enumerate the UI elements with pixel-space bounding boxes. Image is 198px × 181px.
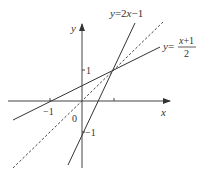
label-y-2x-minus-1: y=2x−1: [109, 7, 143, 19]
tick-label-y-1: 1: [86, 65, 91, 76]
label-fraction-numerator: x+1: [178, 35, 194, 46]
line-y-x-plus-1-over-2: [13, 47, 160, 120]
tick-label-y-neg1: −1: [85, 127, 96, 138]
graph-figure: y=2x−1 y= x+1 2 x y 0 −1 1 −1: [0, 0, 198, 181]
tick-label-x-neg1: −1: [43, 106, 54, 117]
label-y-eq: y=: [162, 40, 174, 52]
line-y-2x-minus-1: [68, 23, 135, 165]
line-y-x-dashed: [13, 22, 163, 168]
y-axis-label: y: [70, 22, 76, 34]
origin-label: 0: [72, 113, 77, 124]
x-axis-label: x: [160, 106, 166, 118]
label-fraction-denominator: 2: [184, 48, 189, 59]
